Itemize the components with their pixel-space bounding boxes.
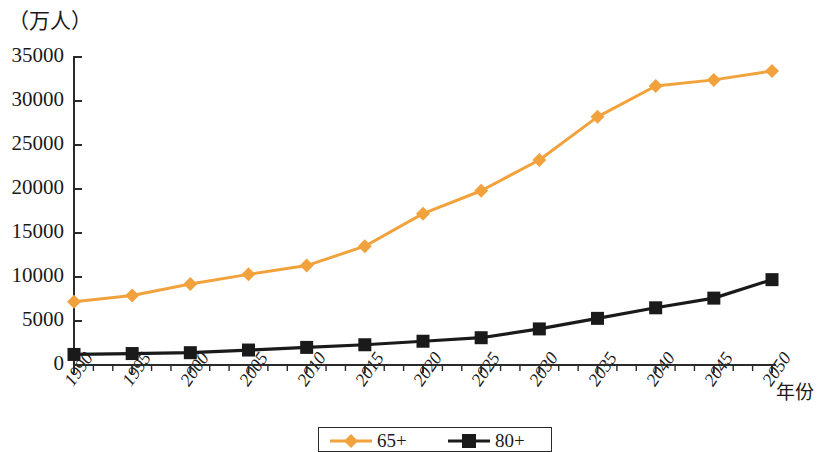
data-point-marker <box>242 344 255 357</box>
legend-marker-diamond-icon <box>329 433 373 449</box>
data-point-marker <box>474 184 488 198</box>
chart-legend: 65+ 80+ <box>318 427 552 452</box>
legend-item-80plus: 80+ <box>447 429 525 452</box>
data-point-marker <box>707 73 721 87</box>
data-point-marker <box>649 301 662 314</box>
data-point-marker <box>68 348 81 361</box>
data-point-marker <box>766 273 779 286</box>
legend-item-65plus: 65+ <box>329 429 407 452</box>
plot-area <box>0 0 825 452</box>
data-point-marker <box>242 267 256 281</box>
legend-label-80plus: 80+ <box>495 431 525 450</box>
data-point-marker <box>67 295 81 309</box>
data-point-marker <box>533 322 546 335</box>
data-point-marker <box>300 341 313 354</box>
data-point-marker <box>300 259 314 273</box>
legend-marker-square-icon <box>447 433 491 449</box>
data-point-marker <box>475 331 488 344</box>
legend-label-65plus: 65+ <box>377 431 407 450</box>
data-series-65plus <box>67 64 779 309</box>
data-point-marker <box>358 239 372 253</box>
data-point-marker <box>591 312 604 325</box>
data-point-marker <box>126 347 139 360</box>
data-point-marker <box>184 346 197 359</box>
data-point-marker <box>707 292 720 305</box>
data-point-marker <box>649 79 663 93</box>
data-point-marker <box>765 64 779 78</box>
data-point-marker <box>417 335 430 348</box>
data-point-marker <box>125 288 139 302</box>
series-line <box>74 71 772 302</box>
chart-root: （万人） 年份 05000100001500020000250003000035… <box>0 0 825 452</box>
data-point-marker <box>183 277 197 291</box>
data-point-marker <box>416 207 430 221</box>
data-point-marker <box>358 338 371 351</box>
